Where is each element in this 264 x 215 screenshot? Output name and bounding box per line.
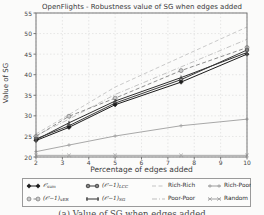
legend-label: Rich-Poor — [224, 183, 251, 189]
x-tick-label: 7 — [162, 159, 174, 166]
figure-caption: (a) Value of SG when edges added — [0, 209, 264, 215]
x-tick-label: 6 — [136, 159, 148, 166]
x-tick-label: 8 — [188, 159, 200, 166]
legend-item-o1-lcc: (𝒪−1)LCC — [85, 182, 151, 190]
legend-label: (𝒪−1)vER — [43, 196, 69, 202]
legend-marker-poor-poor-icon — [151, 195, 166, 203]
legend-marker-random-icon — [207, 195, 222, 203]
legend-item-o-sum: 𝒪sum — [26, 182, 85, 190]
x-tick-label: 9 — [215, 159, 227, 166]
legend-label: Random — [224, 196, 248, 202]
legend-marker-o1-ver-icon — [26, 195, 41, 203]
legend-label: Poor-Poor — [168, 196, 195, 202]
legend-item-rich-poor: Rich-Poor — [207, 182, 251, 190]
y-tick-label: 50 — [18, 30, 32, 37]
legend-item-rich-rich: Rich-Rich — [151, 182, 207, 190]
y-tick-label: 55 — [18, 10, 32, 17]
x-tick-label: 5 — [109, 159, 121, 166]
legend-marker-o-sum-icon — [26, 182, 41, 190]
y-tick-label: 35 — [18, 92, 32, 99]
chart-plot — [0, 0, 264, 175]
legend-marker-rich-rich-icon — [151, 182, 166, 190]
legend-item-o1-sg: (𝒪−1)SG — [85, 195, 151, 203]
legend-marker-rich-poor-icon — [207, 182, 222, 190]
legend-marker-o1-lcc-icon — [85, 182, 100, 190]
y-tick-label: 40 — [18, 71, 32, 78]
y-tick-label: 45 — [18, 51, 32, 58]
x-tick-label: 3 — [56, 159, 68, 166]
x-tick-label: 10 — [241, 159, 253, 166]
legend-label: Rich-Rich — [168, 183, 195, 189]
legend-item-random: Random — [207, 195, 251, 203]
legend-marker-o1-sg-icon — [85, 195, 100, 203]
y-tick-label: 25 — [18, 133, 32, 140]
figure: OpenFlights - Robustness value of SG whe… — [0, 0, 264, 215]
y-tick-label: 30 — [18, 112, 32, 119]
legend-label: (𝒪−1)LCC — [102, 183, 128, 189]
x-tick-label: 4 — [83, 159, 95, 166]
y-axis-label: Value of SG — [2, 48, 10, 118]
legend-label: (𝒪−1)SG — [102, 196, 125, 202]
legend-item-poor-poor: Poor-Poor — [151, 195, 207, 203]
legend-label: 𝒪sum — [43, 183, 56, 189]
legend-item-o1-ver: (𝒪−1)vER — [26, 195, 85, 203]
x-axis-label: Percentage of edges added — [36, 165, 247, 174]
legend: 𝒪sum (𝒪−1)LCC Rich-Rich Rich-Poor (𝒪−1)v… — [22, 178, 251, 207]
x-tick-label: 2 — [30, 159, 42, 166]
